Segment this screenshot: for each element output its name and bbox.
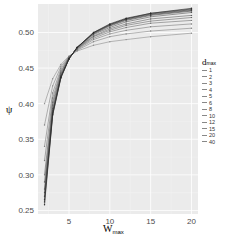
legend-key-icon xyxy=(202,70,207,71)
legend-title: dmax xyxy=(202,57,234,67)
legend-label: 6 xyxy=(209,100,212,106)
legend-key-icon xyxy=(202,115,207,116)
y-tick-label: 0.40 xyxy=(18,100,34,109)
legend-label: 5 xyxy=(209,93,212,99)
legend-label: 3 xyxy=(209,80,212,86)
x-tick-label: 20 xyxy=(187,217,196,226)
legend-label: 2 xyxy=(209,74,212,80)
legend-key-icon xyxy=(202,96,207,97)
y-tick-label: 0.50 xyxy=(18,28,34,37)
legend-key-icon xyxy=(202,102,207,103)
legend-key-icon xyxy=(202,141,207,142)
legend-key-icon xyxy=(202,76,207,77)
legend-key-icon xyxy=(202,128,207,129)
y-axis-title: ψ xyxy=(6,104,13,115)
legend-label: 20 xyxy=(209,132,215,138)
legend-item: 40 xyxy=(202,139,234,146)
legend-label: 4 xyxy=(209,87,212,93)
legend-key-icon xyxy=(202,109,207,110)
legend-label: 1 xyxy=(209,67,212,73)
legend: dmax 12345681012152040 xyxy=(202,57,234,145)
legend-key-icon xyxy=(202,122,207,123)
line-chart: 0.250.300.350.400.450.50 5101520 ψ Wmax xyxy=(0,0,234,242)
legend-items: 12345681012152040 xyxy=(202,67,234,145)
x-tick-label: 15 xyxy=(146,217,155,226)
legend-label: 40 xyxy=(209,139,215,145)
legend-label: 8 xyxy=(209,106,212,112)
x-axis-ticks: 5101520 xyxy=(67,217,197,226)
legend-key-icon xyxy=(202,89,207,90)
x-tick-label: 5 xyxy=(67,217,72,226)
legend-label: 10 xyxy=(209,113,215,119)
legend-label: 15 xyxy=(209,126,215,132)
y-tick-label: 0.45 xyxy=(18,64,34,73)
legend-key-icon xyxy=(202,83,207,84)
legend-key-icon xyxy=(202,135,207,136)
y-axis-ticks: 0.250.300.350.400.450.50 xyxy=(18,28,34,215)
y-tick-label: 0.30 xyxy=(18,171,34,180)
y-tick-label: 0.25 xyxy=(18,206,34,215)
legend-label: 12 xyxy=(209,119,215,125)
y-tick-label: 0.35 xyxy=(18,135,34,144)
